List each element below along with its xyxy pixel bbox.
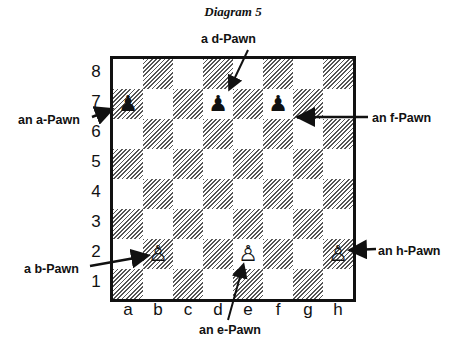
annotation-arrows	[0, 0, 466, 346]
